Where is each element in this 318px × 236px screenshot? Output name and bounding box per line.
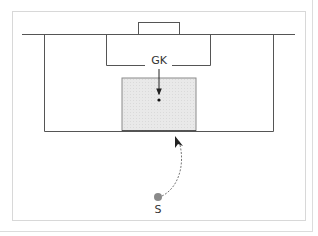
shooter-label: S (151, 204, 166, 216)
curved-shot-path (162, 141, 182, 196)
goal-area (107, 35, 146, 66)
pitch-diagram (0, 0, 318, 236)
shot-arrowhead-icon (175, 136, 183, 148)
goalkeeper-label: GK (147, 55, 171, 67)
shooter-ball (154, 193, 162, 201)
goal (139, 23, 180, 35)
goalkeeper-position-dot (157, 98, 160, 101)
